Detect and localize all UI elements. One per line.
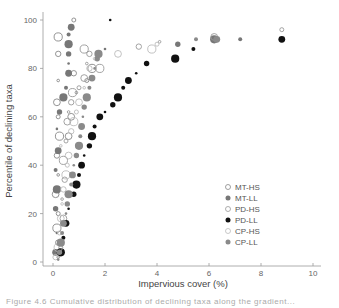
data-point-pd-ll <box>96 113 103 120</box>
data-point-cp-hs <box>60 145 63 148</box>
legend-marker-icon <box>226 196 231 201</box>
data-point-mt-hs <box>57 174 60 177</box>
data-point-mt-hs <box>54 99 61 106</box>
data-point-mt-hs <box>54 33 62 41</box>
data-point-mt-hs <box>57 79 60 82</box>
data-point-pd-hs <box>67 111 70 114</box>
data-point-pd-ll <box>78 162 85 169</box>
data-point-cp-hs <box>155 42 159 46</box>
data-point-cp-hs <box>65 152 72 159</box>
data-point-mt-ll <box>59 93 67 101</box>
y-tick-label: 60 <box>28 113 37 122</box>
data-point-cp-ll <box>69 183 73 187</box>
y-axis-label: Percentile of declining taxa <box>3 84 14 198</box>
data-point-pd-ll <box>171 55 179 63</box>
data-point-cp-hs <box>61 203 64 206</box>
data-point-pd-ll <box>88 132 96 140</box>
legend-label: CP-HS <box>235 227 260 236</box>
x-tick-label: 6 <box>207 269 212 278</box>
data-point-mt-hs <box>56 115 60 119</box>
figure-caption: Figure 4.6 Cumulative distribution of de… <box>6 297 295 306</box>
y-tick-label: 20 <box>28 210 37 219</box>
data-point-cp-ll <box>65 201 70 206</box>
data-point-pd-ll <box>67 207 70 210</box>
data-point-cp-hs <box>115 50 122 57</box>
data-point-mt-ll <box>68 24 75 31</box>
data-point-mt-ll <box>67 62 70 65</box>
data-point-pd-ll <box>104 111 107 114</box>
data-point-mt-ll <box>67 33 71 37</box>
data-point-cp-hs <box>61 187 66 192</box>
x-tick-label: 8 <box>259 269 264 278</box>
legend-label: MT-HS <box>235 183 260 192</box>
legend: MT-HSMT-LLPD-HSPD-LLCP-HSCP-LL <box>226 183 260 247</box>
data-point-cp-ll <box>60 220 67 227</box>
data-point-pd-hs <box>69 100 74 105</box>
x-tick-label: 10 <box>309 269 318 278</box>
data-point-cp-ll <box>74 153 79 158</box>
data-point-pd-ll <box>109 19 112 22</box>
data-point-pd-hs <box>61 198 64 201</box>
data-point-mt-ll <box>238 37 242 41</box>
data-point-pd-ll <box>121 86 125 90</box>
data-point-cp-hs <box>65 163 69 167</box>
data-point-cp-hs <box>83 86 86 89</box>
data-point-pd-ll <box>135 72 138 75</box>
legend-marker-icon <box>226 229 231 234</box>
data-point-pd-ll <box>93 124 97 128</box>
data-point-cp-ll <box>82 116 85 119</box>
data-point-pd-ll <box>87 143 92 148</box>
data-point-pd-hs <box>86 62 89 65</box>
data-point-pd-hs <box>64 139 68 143</box>
data-point-mt-ll <box>65 40 73 48</box>
x-tick-label: 0 <box>51 269 56 278</box>
y-tick-label: 100 <box>24 16 38 25</box>
data-point-pd-hs <box>80 45 88 53</box>
data-point-cp-ll <box>73 164 76 167</box>
y-tick-label: 0 <box>33 258 38 267</box>
data-point-pd-ll <box>77 173 81 177</box>
data-point-pd-ll <box>191 47 195 51</box>
data-point-pd-ll <box>125 77 132 84</box>
data-point-cp-ll <box>78 134 82 138</box>
x-axis-label: Impervious cover (%) <box>138 278 228 289</box>
legend-marker-icon <box>226 218 231 223</box>
data-point-cp-ll <box>94 50 102 58</box>
data-point-mt-ll <box>104 48 107 51</box>
legend-label: MT-LL <box>235 194 258 203</box>
data-point-cp-ll <box>82 104 87 109</box>
data-point-cp-ll <box>75 142 83 150</box>
data-point-pd-ll <box>72 180 80 188</box>
data-point-cp-ll <box>57 258 60 261</box>
data-point-pd-ll <box>278 36 285 43</box>
data-point-pd-ll <box>144 61 149 66</box>
data-point-mt-ll <box>53 185 61 193</box>
x-tick-label: 4 <box>155 269 160 278</box>
data-point-cp-ll <box>57 250 62 255</box>
x-tick-label: 2 <box>103 269 108 278</box>
data-point-pd-ll <box>110 102 115 107</box>
data-point-cp-ll <box>69 171 76 178</box>
data-point-mt-ll <box>64 86 68 90</box>
legend-marker-icon <box>226 185 231 190</box>
y-tick-label: 80 <box>28 64 37 73</box>
data-point-cp-hs <box>76 99 83 106</box>
data-point-pd-hs <box>96 64 104 72</box>
data-point-pd-hs <box>280 28 284 32</box>
data-point-pd-hs <box>136 44 141 49</box>
y-tick-label: 40 <box>28 161 37 170</box>
data-point-mt-hs <box>72 18 76 22</box>
data-point-cp-ll <box>65 190 73 198</box>
data-point-cp-ll <box>87 86 91 90</box>
data-point-cp-ll <box>57 239 65 247</box>
data-point-mt-ll <box>54 168 58 172</box>
data-point-mt-ll <box>175 42 180 47</box>
data-point-cp-ll <box>65 212 68 215</box>
data-point-mt-hs <box>55 132 63 140</box>
data-point-cp-hs <box>148 45 156 53</box>
legend-label: PD-HS <box>235 205 260 214</box>
data-point-mt-ll <box>66 51 71 56</box>
data-point-pd-ll <box>83 154 86 157</box>
data-point-pd-hs <box>77 86 81 90</box>
data-point-cp-ll <box>93 67 96 70</box>
